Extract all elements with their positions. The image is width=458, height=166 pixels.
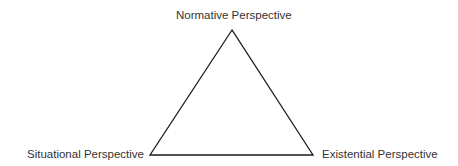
existential-perspective-label: Existential Perspective bbox=[322, 148, 438, 161]
triangle-outline bbox=[150, 30, 313, 155]
normative-perspective-label: Normative Perspective bbox=[176, 9, 292, 22]
situational-perspective-label: Situational Perspective bbox=[27, 148, 144, 161]
triangle-shape bbox=[0, 0, 458, 166]
perspectives-triangle-diagram: Normative Perspective Situational Perspe… bbox=[0, 0, 458, 166]
